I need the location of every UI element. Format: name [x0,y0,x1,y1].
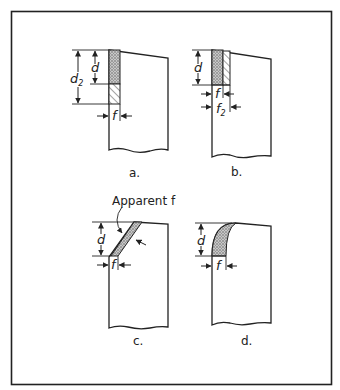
wear-land-b [212,50,223,85]
panel-b: d f f2 b. [192,50,271,179]
panel-c: Apparent f d f c. [92,194,176,348]
caption-a: a. [129,166,140,180]
dim-d-label-d: d [197,233,206,248]
caption-d: d. [241,334,252,348]
caption-c: c. [133,334,143,348]
caption-b: b. [231,165,242,179]
dim-d-label-a: d [91,60,100,75]
dim-d-label-b: d [194,60,203,75]
tool-wear-diagram: d d2 f a. d f f2 b. Apparent [0,0,340,390]
secondary-wear-a [109,84,120,104]
panel-a: d d2 f a. [70,50,168,180]
apparent-f-annotation: Apparent f [112,194,176,208]
secondary-wear-b [223,51,230,85]
dim-d2-label-a: d2 [70,71,83,88]
panel-d: d f d. [195,223,271,348]
dim-d-label-c: d [97,232,106,247]
tool-body-c [109,222,168,329]
wear-land-a [109,50,120,84]
